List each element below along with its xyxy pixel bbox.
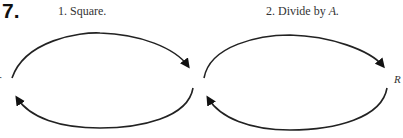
left-cycle-bottom-arrow bbox=[17, 88, 193, 128]
right-cycle-top-arrow bbox=[204, 35, 383, 78]
left-cycle-top-arrow bbox=[12, 33, 188, 78]
cycle-diagram bbox=[0, 0, 403, 138]
right-cycle-bottom-arrow bbox=[208, 88, 387, 130]
